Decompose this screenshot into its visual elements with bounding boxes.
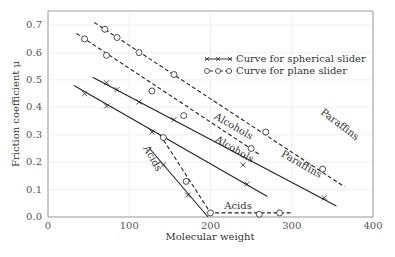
cross-marker-icon — [241, 162, 246, 167]
circle-marker-icon — [104, 52, 110, 58]
series-group — [74, 22, 345, 217]
circle-marker-icon — [263, 129, 269, 135]
y-tick-label: 0.2 — [26, 156, 42, 167]
y-tick-label: 0.7 — [26, 19, 42, 30]
y-ticks: 0.00.10.20.30.40.50.60.7 — [26, 19, 42, 222]
cross-marker-icon — [137, 99, 142, 104]
x-tick-label: 400 — [363, 220, 382, 231]
x-tick-label: 200 — [201, 220, 220, 231]
y-tick-label: 0.3 — [26, 129, 42, 140]
x-tick-label: 100 — [120, 220, 139, 231]
y-tick-label: 0.5 — [26, 74, 42, 85]
circle-marker-icon — [160, 135, 166, 141]
curve-annotation: Paraffins — [280, 148, 324, 180]
circle-marker-icon — [136, 50, 142, 56]
x-tick-label: 0 — [45, 220, 51, 231]
curve-annotation: Acids — [141, 143, 165, 173]
circle-marker-icon — [256, 211, 262, 217]
x-tick-label: 300 — [282, 220, 301, 231]
y-tick-label: 0.0 — [26, 211, 42, 222]
curve-annotation: Paraffins — [319, 106, 361, 142]
circle-marker-icon — [277, 210, 283, 216]
curve-annotation: Acids — [223, 200, 252, 211]
y-tick-label: 0.6 — [26, 47, 42, 58]
circle-marker-icon — [183, 178, 189, 184]
y-tick-label: 0.4 — [26, 101, 42, 112]
y-tick-label: 0.1 — [26, 184, 42, 195]
series-line — [76, 33, 260, 155]
circle-marker-icon — [171, 72, 177, 78]
y-axis-label: Friction coefficient μ — [10, 60, 21, 167]
legend-plane: Curve for plane slider — [236, 65, 347, 76]
x-axis-label: Molecular weight — [165, 231, 254, 242]
friction-chart: 0.00.10.20.30.40.50.60.7 0100200300400 P… — [0, 0, 395, 257]
legend-spherical: Curve for spherical slider — [236, 53, 366, 64]
legend: Curve for spherical slider Curve for pla… — [205, 53, 366, 76]
circle-marker-icon — [149, 88, 155, 94]
circle-marker-icon — [181, 113, 187, 119]
legend-circle-marker-icon — [205, 69, 232, 74]
annotations: ParaffinsAlcoholsAcidsAlcoholsParaffinsA… — [141, 106, 361, 211]
circle-marker-icon — [102, 26, 108, 32]
circle-marker-icon — [208, 210, 214, 216]
circle-marker-icon — [82, 36, 88, 42]
series-line — [74, 85, 267, 196]
circle-marker-icon — [114, 35, 120, 41]
x-ticks: 0100200300400 — [45, 220, 383, 231]
